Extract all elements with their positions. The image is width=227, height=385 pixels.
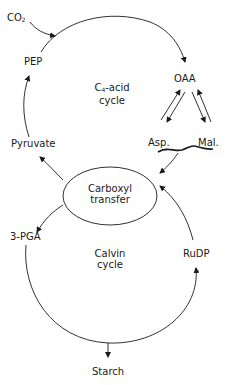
mal-to-oaa-arrow xyxy=(198,90,211,122)
oaa-to-mal-arrow xyxy=(192,92,205,122)
pyruvate-label: Pyruvate xyxy=(11,138,56,149)
co2-arrow xyxy=(30,22,55,36)
oaa-label: OAA xyxy=(174,73,196,84)
pyruvate-to-pep-arrow xyxy=(24,76,29,137)
co2-label: CO2 xyxy=(7,12,26,25)
starch-label: Starch xyxy=(92,366,124,377)
transfer-to-pyruvate-arrow xyxy=(40,157,63,180)
rudp-to-transfer-arrow xyxy=(160,186,193,240)
transfer-to-pga-arrow xyxy=(37,205,63,232)
rudp-label: RuDP xyxy=(183,248,210,259)
pga-label: 3-PGA xyxy=(10,231,41,242)
carboxyl-transfer-label: Carboxyl transfer xyxy=(80,183,140,205)
c4-acid-to-transfer-arrow xyxy=(160,153,178,173)
c4-acid-cycle-label: C4-acid cycle xyxy=(82,82,142,106)
mal-label: Mal. xyxy=(198,137,219,148)
asp-label: Asp. xyxy=(148,137,170,148)
calvin-cycle-label: Calvin cycle xyxy=(80,248,140,270)
pep-to-oaa-arc xyxy=(41,16,185,62)
pep-label: PEP xyxy=(24,56,42,67)
